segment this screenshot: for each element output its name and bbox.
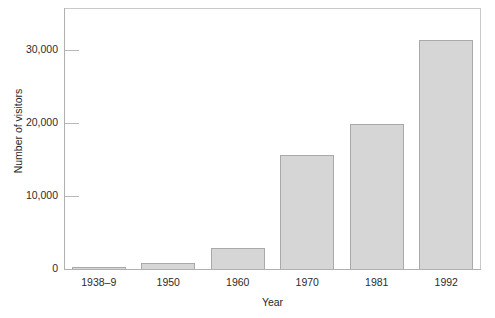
x-axis-tick-label: 1970: [273, 276, 343, 288]
x-axis-tick-label: 1938–9: [64, 276, 134, 288]
x-axis-title: Year: [64, 296, 481, 308]
y-axis-tick: [65, 123, 79, 124]
bar: [350, 124, 404, 270]
y-axis-title: Number of visitors: [12, 61, 24, 201]
x-axis-tick-label: 1960: [203, 276, 273, 288]
x-axis-tick-label: 1992: [412, 276, 482, 288]
bar-chart-figure: 010,00020,00030,000 Number of visitors 1…: [0, 0, 495, 318]
x-axis-line: [64, 269, 481, 270]
y-axis-tick-label: 10,000: [2, 190, 58, 201]
bar: [211, 248, 265, 270]
y-axis-tick-label: 0: [2, 263, 58, 274]
x-axis-tick-label: 1950: [134, 276, 204, 288]
bars-layer: [64, 8, 481, 270]
bar: [280, 155, 334, 270]
y-axis-tick: [65, 196, 79, 197]
y-axis-tick-labels: 010,00020,00030,000: [0, 0, 58, 318]
y-axis-tick-label: 20,000: [2, 117, 58, 128]
y-axis-tick-label: 30,000: [2, 44, 58, 55]
y-axis-tick: [65, 50, 79, 51]
y-axis-line: [64, 8, 65, 270]
x-axis-tick-label: 1981: [342, 276, 412, 288]
bar: [419, 40, 473, 270]
